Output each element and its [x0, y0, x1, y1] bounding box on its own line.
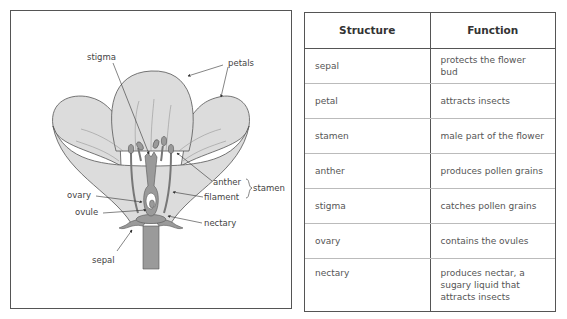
- table-row: sepal protects the flower bud: [305, 49, 555, 84]
- flower-illustration: stigma petals anther filament stamen ova…: [11, 11, 293, 310]
- table-header-row: Structure Function: [305, 13, 555, 49]
- cell-function: catches pollen grains: [430, 189, 555, 224]
- cell-function: male part of the flower: [430, 119, 555, 154]
- label-stamen: stamen: [253, 183, 285, 193]
- table-row: stamen male part of the flower: [305, 119, 555, 154]
- label-nectary: nectary: [204, 218, 236, 228]
- cell-function: produces nectar, a sugary liquid that at…: [430, 259, 555, 312]
- petal-top: [112, 71, 194, 151]
- label-stigma: stigma: [87, 52, 116, 62]
- cell-structure: stigma: [305, 189, 430, 224]
- cell-structure: nectary: [305, 259, 430, 312]
- table-row: stigma catches pollen grains: [305, 189, 555, 224]
- cell-function: contains the ovules: [430, 224, 555, 259]
- label-sepal: sepal: [92, 255, 115, 265]
- flower-diagram: stigma petals anther filament stamen ova…: [10, 10, 292, 309]
- header-structure: Structure: [305, 13, 430, 49]
- table-row: petal attracts insects: [305, 84, 555, 119]
- cell-structure: anther: [305, 154, 430, 189]
- stem: [143, 226, 159, 269]
- cell-structure: ovary: [305, 224, 430, 259]
- cell-function: attracts insects: [430, 84, 555, 119]
- cell-function: produces pollen grains: [430, 154, 555, 189]
- table-row: ovary contains the ovules: [305, 224, 555, 259]
- structure-function-table: Structure Function sepal protects the fl…: [304, 12, 556, 312]
- label-petals: petals: [228, 58, 255, 68]
- label-filament: filament: [204, 192, 240, 202]
- cell-structure: stamen: [305, 119, 430, 154]
- header-function: Function: [430, 13, 555, 49]
- cell-structure: sepal: [305, 49, 430, 84]
- cell-function: protects the flower bud: [430, 49, 555, 84]
- ovule: [150, 200, 155, 208]
- label-ovary: ovary: [67, 190, 91, 200]
- table-row: anther produces pollen grains: [305, 154, 555, 189]
- table-row: nectary produces nectar, a sugary liquid…: [305, 259, 555, 312]
- label-ovule: ovule: [75, 207, 98, 217]
- cell-structure: petal: [305, 84, 430, 119]
- label-anther: anther: [213, 177, 242, 187]
